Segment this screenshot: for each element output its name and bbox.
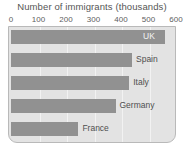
bar-label-germany: Germany: [120, 100, 155, 110]
bar-row: UK: [9, 30, 175, 44]
bar-label-france: France: [82, 123, 108, 133]
x-tick-label-400: 400: [114, 15, 127, 24]
x-tick-label-100: 100: [32, 15, 45, 24]
bar-label-spain: Spain: [136, 54, 158, 64]
x-tick-label-200: 200: [59, 15, 72, 24]
x-tick-label-600: 600: [169, 15, 182, 24]
bar-row: Italy: [9, 76, 175, 90]
x-tick-label-300: 300: [87, 15, 100, 24]
bar-label-uk: UK: [143, 31, 155, 41]
bar-label-italy: Italy: [133, 77, 149, 87]
plot-area: UKSpainItalyGermanyFrance: [8, 26, 176, 143]
bar-row: Germany: [9, 99, 175, 113]
immigrants-bar-chart: Number of immigrants (thousands) 0100200…: [0, 0, 184, 157]
x-axis-tick-labels: 0100200300400500600: [0, 15, 184, 26]
x-tick-label-500: 500: [142, 15, 155, 24]
bar-row: France: [9, 122, 175, 136]
bar-series: UKSpainItalyGermanyFrance: [9, 27, 175, 142]
bar-france: [11, 122, 78, 136]
x-tick-label-0: 0: [9, 15, 13, 24]
bar-germany: [11, 99, 116, 113]
chart-title: Number of immigrants (thousands): [0, 1, 184, 12]
bar-spain: [11, 53, 132, 67]
bar-uk: [11, 30, 165, 44]
bar-italy: [11, 76, 129, 90]
bar-row: Spain: [9, 53, 175, 67]
